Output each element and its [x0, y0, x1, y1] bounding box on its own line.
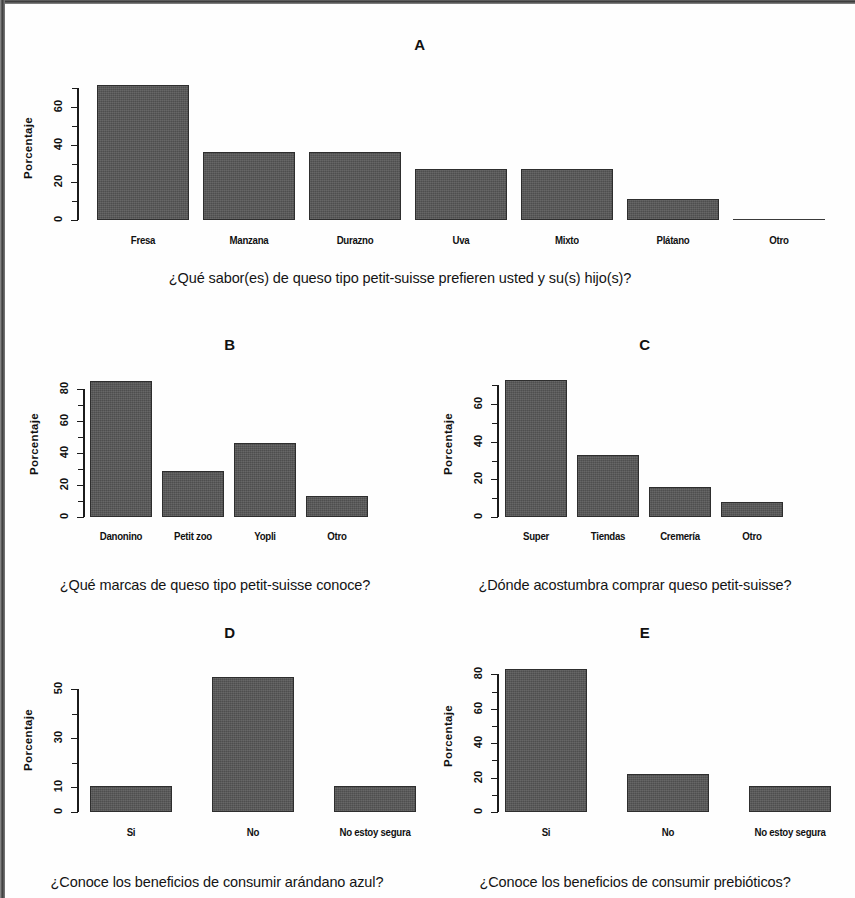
y-axis-tick-minor [72, 763, 78, 764]
bar [203, 152, 295, 220]
y-axis-tick-major [491, 517, 498, 518]
caption-b: ¿Qué marcas de queso tipo petit-suisse c… [5, 577, 425, 593]
caption-c: ¿Dónde acostumbra comprar queso petit-su… [425, 577, 845, 593]
figure-panel-b: B Porcentaje020406080DanoninoPetit zooYo… [5, 334, 430, 604]
y-axis-tick-major [71, 107, 78, 108]
bar [721, 502, 783, 517]
y-axis-label: Porcentaje [28, 404, 40, 484]
y-axis-tick-minor [72, 88, 78, 89]
y-axis-tick-major [491, 442, 498, 443]
y-axis-tick-major [71, 220, 78, 221]
bar [234, 443, 296, 517]
y-axis-tick-major [77, 389, 84, 390]
y-axis-tick-label: 60 [472, 389, 484, 417]
y-axis-tick-label: 30 [52, 723, 64, 751]
y-axis-tick-label: 0 [58, 502, 70, 530]
bar [577, 455, 639, 517]
figure-panel-e: E Porcentaje020406080SiNoNo estoy segura… [425, 622, 850, 898]
y-axis-label: Porcentaje [442, 404, 454, 484]
y-axis-tick-label: 20 [472, 464, 484, 492]
bar [505, 380, 567, 517]
y-axis-tick-minor [72, 164, 78, 165]
x-axis-category-label: No estoy segura [729, 826, 850, 838]
y-axis-tick-label: 40 [472, 427, 484, 455]
y-axis-tick-minor [72, 126, 78, 127]
bar [649, 487, 711, 517]
y-axis-label: Porcentaje [22, 108, 34, 188]
y-axis-tick-minor [492, 385, 498, 386]
y-axis-tick-minor [492, 726, 498, 727]
y-axis-tick-label: 60 [58, 406, 70, 434]
y-axis-tick-label: 0 [52, 205, 64, 233]
plot-area-c: Porcentaje0204060SuperTiendasCremeríaOtr… [425, 334, 850, 549]
y-axis-tick-label: 20 [472, 763, 484, 791]
bar [733, 219, 825, 221]
y-axis-tick-minor [72, 201, 78, 202]
bar [521, 169, 613, 220]
y-axis-tick-major [77, 517, 84, 518]
y-axis-tick-label: 60 [472, 694, 484, 722]
plot-area-d: Porcentaje0103050SiNoNo estoy segura [5, 622, 430, 844]
bar [90, 381, 152, 517]
bar [415, 169, 507, 220]
y-axis-tick-major [71, 812, 78, 813]
caption-e: ¿Conoce los beneficios de consumir prebi… [425, 874, 845, 890]
y-axis-tick-minor [492, 461, 498, 462]
bar [309, 152, 401, 220]
y-axis-tick-major [71, 787, 78, 788]
y-axis-tick-minor [492, 423, 498, 424]
bar [212, 677, 294, 812]
y-axis-tick-major [77, 453, 84, 454]
y-axis-tick-major [77, 421, 84, 422]
x-axis-category-label: Otro [714, 234, 845, 246]
y-axis-tick-minor [78, 437, 84, 438]
x-axis-category-label: Si [485, 826, 606, 838]
y-axis-tick-minor [492, 498, 498, 499]
y-axis-line [77, 689, 79, 812]
bar [627, 774, 709, 812]
x-axis-category-label: Si [70, 826, 191, 838]
y-axis-tick-major [491, 674, 498, 675]
y-axis-label: Porcentaje [442, 696, 454, 776]
y-axis-label: Porcentaje [22, 700, 34, 780]
y-axis-tick-label: 40 [472, 728, 484, 756]
x-axis-category-label: Otro [285, 530, 388, 542]
figure-panel-c: C Porcentaje0204060SuperTiendasCremeríaO… [425, 334, 850, 604]
bar [749, 786, 831, 812]
y-axis-tick-major [491, 743, 498, 744]
x-axis-category-label: No [192, 826, 313, 838]
y-axis-tick-major [71, 689, 78, 690]
y-axis-tick-label: 40 [52, 130, 64, 158]
y-axis-tick-label: 0 [52, 797, 64, 825]
x-axis-category-label: No estoy segura [314, 826, 435, 838]
y-axis-tick-major [71, 145, 78, 146]
caption-d: ¿Conoce los beneficios de consumir aránd… [5, 874, 429, 890]
figure-panel-a: A Porcentaje0204060FresaManzanaDuraznoUv… [5, 22, 855, 292]
bar [97, 85, 189, 220]
y-axis-tick-major [71, 738, 78, 739]
y-axis-tick-label: 40 [58, 438, 70, 466]
y-axis-tick-label: 60 [52, 92, 64, 120]
bar [162, 471, 224, 517]
y-axis-tick-label: 0 [472, 502, 484, 530]
bar [306, 496, 368, 517]
y-axis-tick-label: 20 [52, 167, 64, 195]
plot-area-a: Porcentaje0204060FresaManzanaDuraznoUvaM… [5, 22, 855, 252]
y-axis-tick-minor [78, 469, 84, 470]
x-axis-category-label: Otro [700, 530, 803, 542]
y-axis-tick-label: 80 [472, 659, 484, 687]
y-axis-tick-minor [492, 760, 498, 761]
figure-panel-d: D Porcentaje0103050SiNoNo estoy segura ¿… [5, 622, 430, 898]
y-axis-tick-label: 80 [58, 374, 70, 402]
document-page: A Porcentaje0204060FresaManzanaDuraznoUv… [5, 4, 855, 898]
bar [505, 669, 587, 812]
y-axis-tick-major [491, 709, 498, 710]
y-axis-tick-label: 50 [52, 674, 64, 702]
y-axis-tick-major [77, 485, 84, 486]
bar [90, 786, 172, 812]
plot-area-e: Porcentaje020406080SiNoNo estoy segura [425, 622, 850, 844]
caption-a: ¿Qué sabor(es) de queso tipo petit-suiss… [5, 270, 795, 286]
y-axis-tick-major [71, 182, 78, 183]
bar [334, 786, 416, 812]
y-axis-tick-minor [492, 795, 498, 796]
